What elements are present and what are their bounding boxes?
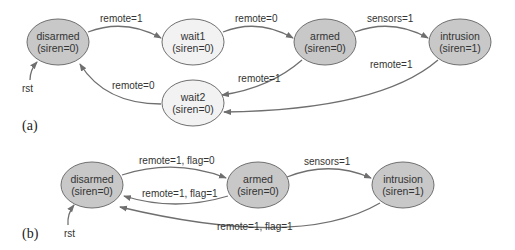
label-b-armed-to-disarmed: remote=1, flag=1 [142, 188, 218, 199]
state-a-wait1-name: wait1 [180, 30, 206, 42]
label-b-disarmed-to-armed: remote=1, flag=0 [139, 155, 215, 166]
diagram-b: remote=1, flag=0 remote=1, flag=1 sensor… [22, 155, 434, 242]
state-a-armed-output: (siren=0) [304, 42, 346, 54]
state-a-intrusion-name: intrusion [440, 30, 480, 42]
state-a-disarmed-name: disarmed [36, 30, 79, 42]
state-b-armed: armed (siren=0) [227, 162, 289, 208]
state-a-wait1-output: (siren=0) [172, 42, 214, 54]
edge-a-armed-to-intrusion [355, 26, 428, 38]
diagram-a: remote=1 remote=0 sensors=1 remote=1 rem… [22, 13, 491, 134]
panel-label-a: (a) [22, 118, 38, 134]
label-a-armed-to-wait2: remote=1 [238, 73, 281, 84]
state-a-disarmed-output: (siren=0) [37, 42, 79, 54]
label-a-armed-to-intrusion: sensors=1 [367, 13, 414, 24]
edge-b-armed-to-intrusion [287, 169, 371, 178]
state-diagram-canvas: remote=1 remote=0 sensors=1 remote=1 rem… [0, 0, 515, 250]
state-a-armed-name: armed [310, 30, 340, 42]
state-a-armed: armed (siren=0) [294, 19, 356, 65]
state-b-disarmed-output: (siren=0) [71, 185, 113, 197]
state-a-wait2-output: (siren=0) [172, 103, 214, 115]
label-b-reset: rst [64, 228, 75, 239]
label-a-disarmed-to-wait1: remote=1 [100, 13, 143, 24]
label-b-armed-to-intrusion: sensors=1 [304, 156, 351, 167]
edge-a-wait1-to-armed [223, 26, 293, 38]
state-a-intrusion: intrusion (siren=1) [429, 19, 491, 65]
state-a-intrusion-output: (siren=1) [439, 42, 481, 54]
edge-b-disarmed-to-armed [122, 167, 226, 178]
state-b-disarmed-name: disarmed [70, 173, 113, 185]
state-a-disarmed: disarmed (siren=0) [27, 19, 89, 65]
label-b-intrusion-to-disarmed: remote=1, flag=1 [217, 221, 293, 232]
state-b-armed-output: (siren=0) [237, 185, 279, 197]
label-a-intrusion-to-wait2: remote=1 [370, 59, 413, 70]
panel-label-b: (b) [22, 226, 39, 242]
state-a-wait2: wait2 (siren=0) [162, 80, 224, 126]
state-b-intrusion: intrusion (siren=1) [372, 162, 434, 208]
label-a-reset: rst [22, 83, 33, 94]
label-a-wait2-to-disarmed: remote=0 [112, 80, 155, 91]
edge-a-disarmed-to-wait1 [88, 26, 161, 38]
state-a-wait1: wait1 (siren=0) [162, 19, 224, 65]
state-b-disarmed: disarmed (siren=0) [61, 162, 123, 208]
state-b-armed-name: armed [243, 173, 273, 185]
edge-b-reset [68, 205, 74, 225]
label-a-wait1-to-armed: remote=0 [235, 13, 278, 24]
state-b-intrusion-name: intrusion [383, 173, 423, 185]
state-b-intrusion-output: (siren=1) [382, 185, 424, 197]
edge-a-reset [30, 62, 37, 80]
state-a-wait2-name: wait2 [180, 91, 206, 103]
